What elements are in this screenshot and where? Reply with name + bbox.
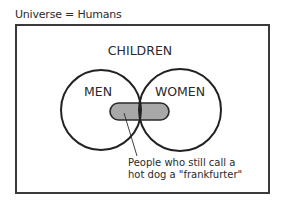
venn-diagram: CHILDREN MEN WOMEN People who still call… <box>0 0 283 209</box>
annotation-line-2: hot dog a "frankfurter" <box>128 169 242 180</box>
children-label: CHILDREN <box>108 43 172 58</box>
women-label: WOMEN <box>155 84 205 99</box>
men-label: MEN <box>84 84 112 99</box>
annotation-line-1: People who still call a <box>128 157 235 168</box>
